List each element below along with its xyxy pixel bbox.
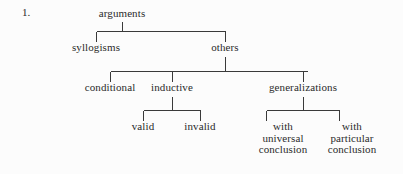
tree-node-with-particular-conclusion-line-3: conclusion [317,144,387,156]
tree-node-inductive[interactable]: inductive [151,82,193,94]
tree-node-with-universal-conclusion-line-1: with [248,121,318,133]
tree-node-with-universal-conclusion[interactable]: with universal conclusion [248,121,318,156]
tree-node-valid-label: valid [132,121,155,133]
tree-node-conditional-label: conditional [85,82,136,94]
tree-node-arguments[interactable]: arguments [99,8,146,20]
tree-diagram: 1. arguments [0,0,403,174]
tree-node-valid[interactable]: valid [132,121,155,133]
tree-node-inductive-label: inductive [151,82,193,94]
tree-node-generalizations-label: generalizations [269,82,337,94]
tree-node-others[interactable]: others [211,42,238,54]
tree-node-others-label: others [211,42,238,54]
tree-node-generalizations[interactable]: generalizations [269,82,337,94]
tree-node-conditional[interactable]: conditional [85,82,136,94]
tree-node-invalid-label: invalid [184,121,215,133]
tree-node-syllogisms-label: syllogisms [72,42,120,54]
tree-node-with-particular-conclusion-line-1: with [317,121,387,133]
tree-node-syllogisms[interactable]: syllogisms [72,42,120,54]
tree-node-with-particular-conclusion[interactable]: with particular conclusion [317,121,387,156]
tree-node-with-universal-conclusion-line-3: conclusion [248,144,318,156]
tree-node-invalid[interactable]: invalid [184,121,215,133]
tree-node-arguments-label: arguments [99,8,146,20]
